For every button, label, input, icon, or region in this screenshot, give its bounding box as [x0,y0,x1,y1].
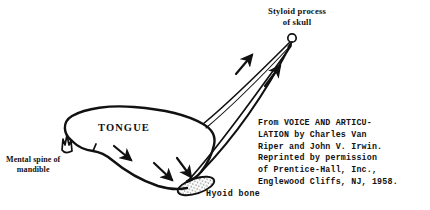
anatomical-figure: TONGUE Styloid processof skull Mental sp… [0,0,430,210]
label-styloid-line1: Styloid process [268,6,326,16]
attribution-block: From VOICE AND ARTICU- LATION by Charles… [258,117,398,188]
attribution-line: From VOICE AND ARTICU- [258,117,398,129]
attribution-line: Reprinted by permission [258,152,398,164]
arrow-tongue-tip-icon [114,146,131,160]
label-tongue: TONGUE [98,122,150,133]
attribution-line: LATION by Charles Van [258,129,398,141]
attribution-line: of Prentice-Hall, Inc., [258,164,398,176]
mental-spine-shape [62,135,72,152]
arrow-tongue-mid-icon [154,163,172,180]
arrow-muscle-lower-icon [236,55,252,74]
arrow-hyoid-icon [177,158,191,177]
force-arrows [114,55,280,180]
label-styloid-process: Styloid processof skull [268,6,326,27]
arrow-muscle-upper-icon [265,66,280,86]
label-hyoid-bone: Hyoid bone [206,190,260,199]
label-mental-line1: Mental spine of [6,155,60,164]
styloid-process-shape [288,34,296,42]
attribution-line: Riper and John V. Irwin. [258,141,398,153]
label-mental-spine: Mental spine ofmandible [6,155,60,174]
label-styloid-line2: of skull [283,17,312,27]
attribution-line: Englewood Cliffs, NJ, 1958. [258,176,398,188]
label-mental-line2: mandible [17,165,50,174]
